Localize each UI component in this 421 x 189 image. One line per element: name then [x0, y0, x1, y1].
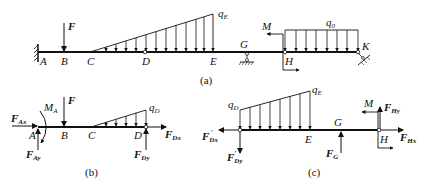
qe-label-c: qE [312, 83, 323, 97]
qe-label: qE [218, 7, 229, 21]
point-b: B [61, 55, 68, 67]
point-c: C [87, 55, 95, 67]
point-g: G [240, 38, 248, 50]
point-b-b: B [61, 129, 68, 141]
fdx-label: FDx [164, 128, 181, 142]
triangular-load [90, 14, 213, 52]
fdy-prime-label: FDy′ [226, 149, 243, 165]
qd-label-c: qD [228, 98, 239, 112]
point-e: E [209, 55, 217, 67]
q0-label: q0 [326, 16, 336, 30]
panel-c: qD qE FDx′ FDy′ FG M FHy FHx E G H (c) [201, 83, 417, 179]
point-e-c: E [304, 133, 312, 145]
moment-m-label-c: M [363, 97, 374, 109]
fay-label: FAy [25, 148, 41, 162]
ma-label: MA [43, 101, 58, 115]
trapezoidal-load-c [240, 91, 310, 129]
panel-b: FAx FAy MA F qD FDx FDy A B C D (b) [10, 94, 181, 179]
force-f-label-b: F [67, 94, 76, 106]
fax-label: FAx [10, 112, 27, 126]
fdy-label: FDy [133, 148, 150, 162]
panel-a: F qE [34, 7, 370, 87]
mechanics-diagram: F qE [0, 0, 421, 189]
qd-label-b: qD [149, 101, 160, 115]
triangular-load-b [91, 110, 146, 127]
caption-b: (b) [85, 166, 98, 179]
point-h: H [284, 55, 294, 67]
point-d-b: D [133, 129, 142, 141]
point-a: A [39, 55, 47, 67]
pin-support-k [356, 50, 370, 65]
caption-a: (a) [200, 74, 213, 87]
force-f-label: F [67, 20, 76, 32]
hinge-h [283, 50, 287, 54]
hinge-d [143, 50, 147, 54]
fhx-label: FHx [399, 131, 417, 145]
fhy-label: FHy [383, 101, 401, 115]
fdx-prime-label: FDx′ [201, 128, 218, 144]
hinge-d-c [238, 128, 242, 132]
point-c-b: C [88, 129, 96, 141]
fixed-support-a [34, 44, 38, 62]
caption-c: (c) [308, 166, 321, 179]
point-d: D [141, 55, 150, 67]
moment-m-label: M [261, 20, 272, 32]
point-a-b: A [28, 129, 36, 141]
point-g-c: G [334, 116, 342, 128]
point-k: K [361, 40, 370, 52]
roller-support-g [239, 52, 254, 65]
point-h-c: H [379, 133, 389, 145]
uniform-load-q0 [285, 30, 358, 51]
fg-label: FG [325, 147, 338, 161]
hinge-h-c [377, 128, 381, 132]
